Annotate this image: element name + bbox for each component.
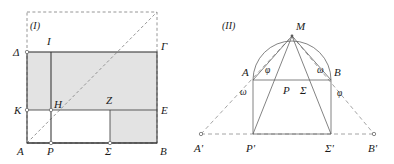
label-angle-phi-at-A: φ bbox=[265, 65, 270, 75]
panel-1-shade-top-band bbox=[27, 52, 157, 110]
vertex-marker-Delta bbox=[25, 50, 28, 53]
label-point-B-2: B bbox=[334, 66, 341, 78]
panel-2-cevian-M-A bbox=[253, 36, 292, 80]
panel-2-cevian-M-Sigmaprime bbox=[292, 36, 331, 134]
label-point-P: P bbox=[46, 145, 54, 157]
panel-1-caption: (I) bbox=[30, 20, 41, 32]
label-point-Bprime: B' bbox=[368, 142, 378, 154]
label-point-Pprime: P' bbox=[245, 142, 256, 154]
panel-2-caption: (II) bbox=[222, 20, 236, 32]
panel-2-cevian-M-B bbox=[292, 36, 331, 80]
label-point-M: M bbox=[295, 20, 306, 32]
label-point-K: K bbox=[13, 104, 22, 116]
label-point-Sigma-2: Σ bbox=[299, 84, 307, 96]
panel-1-group: (I) A B Γ Δ K E I P H Z Σ bbox=[12, 12, 168, 157]
vertex-marker-M bbox=[291, 35, 294, 38]
label-angle-phi-at-Bprime: φ bbox=[337, 88, 342, 98]
vertex-marker-Aprime bbox=[199, 132, 202, 135]
label-point-A: A bbox=[16, 145, 24, 157]
label-point-I: I bbox=[46, 35, 52, 47]
label-point-H: H bbox=[53, 98, 63, 110]
label-point-Aprime: A' bbox=[193, 142, 204, 154]
geometry-figure-root: (I) A B Γ Δ K E I P H Z Σ bbox=[0, 0, 394, 164]
label-point-B: B bbox=[160, 145, 167, 157]
vertex-marker-Bprime bbox=[372, 132, 375, 135]
label-angle-omega-at-Aprime: ω bbox=[240, 87, 247, 97]
label-point-Sigmaprime: Σ' bbox=[324, 142, 335, 154]
label-point-E: E bbox=[160, 104, 168, 116]
panel-1-shade-lower-right bbox=[110, 110, 157, 143]
geometry-figure-svg: (I) A B Γ Δ K E I P H Z Σ bbox=[0, 0, 394, 164]
label-angle-omega-at-B: ω bbox=[317, 65, 324, 75]
label-point-P-2: P bbox=[282, 84, 290, 96]
label-point-Z: Z bbox=[106, 94, 113, 106]
panel-2-group: (II) M A B P Σ A' B' P' Σ' φ ω ω φ bbox=[193, 20, 378, 154]
panel-2-ray-Aprime-M bbox=[201, 36, 292, 134]
label-point-Delta: Δ bbox=[12, 46, 19, 58]
vertex-marker-H bbox=[49, 108, 52, 111]
label-point-Gamma: Γ bbox=[160, 40, 168, 52]
label-point-A-2: A bbox=[241, 66, 249, 78]
vertex-marker-K bbox=[25, 108, 28, 111]
label-point-Sigma: Σ bbox=[104, 145, 112, 157]
